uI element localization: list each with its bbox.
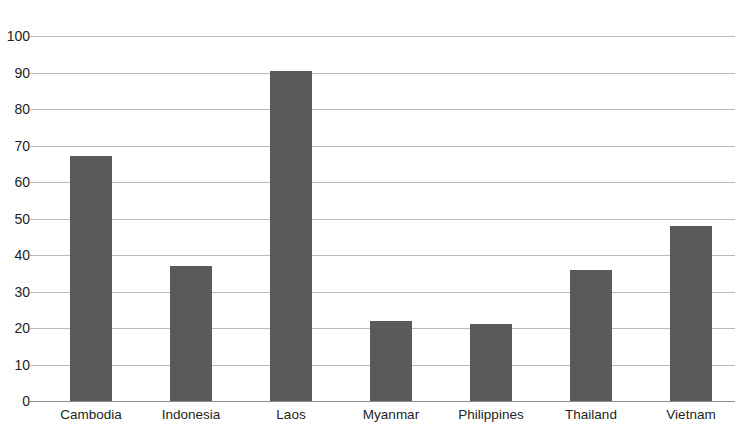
bar[interactable] — [370, 321, 412, 401]
x-axis-tick-label: Vietnam — [666, 406, 715, 424]
y-axis: 0102030405060708090100 — [0, 0, 30, 430]
y-axis-tick-label: 40 — [0, 248, 30, 262]
x-axis-tick-label: Myanmar — [363, 406, 419, 424]
y-axis-tick-label: 0 — [0, 394, 30, 408]
bar[interactable] — [170, 266, 212, 401]
x-axis-tick-label: Indonesia — [162, 406, 221, 424]
bars-layer — [36, 36, 735, 401]
bar[interactable] — [270, 71, 312, 401]
y-axis-tick-label: 60 — [0, 175, 30, 189]
bar[interactable] — [570, 270, 612, 401]
y-axis-tick-label: 100 — [0, 29, 30, 43]
y-axis-tick-label: 20 — [0, 321, 30, 335]
y-axis-tick-label: 80 — [0, 102, 30, 116]
x-axis-tick-label: Thailand — [565, 406, 617, 424]
y-axis-tick-label: 30 — [0, 285, 30, 299]
x-axis-tick-label: Philippines — [458, 406, 523, 424]
y-axis-tick-label: 70 — [0, 139, 30, 153]
y-axis-tick-label: 50 — [0, 212, 30, 226]
x-axis-tick-label: Laos — [276, 406, 305, 424]
axis-baseline — [36, 401, 735, 402]
y-axis-tick-label: 10 — [0, 358, 30, 372]
bar-chart: 0102030405060708090100 CambodiaIndonesia… — [0, 0, 745, 430]
x-axis-tick-label: Cambodia — [60, 406, 122, 424]
bar[interactable] — [670, 226, 712, 401]
y-axis-tick-label: 90 — [0, 66, 30, 80]
x-axis: CambodiaIndonesiaLaosMyanmarPhilippinesT… — [36, 406, 735, 430]
bar[interactable] — [470, 324, 512, 401]
bar[interactable] — [70, 156, 112, 401]
